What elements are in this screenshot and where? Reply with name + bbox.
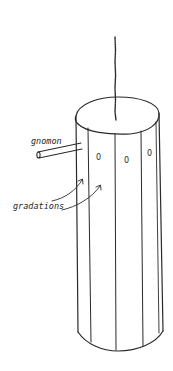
gradation-mark: 0 — [147, 149, 152, 158]
sundial-diagram: 0 0 0 gnomon gradations — [0, 0, 173, 371]
cylinder-right-edge — [159, 113, 163, 331]
cylinder-left-edge — [76, 116, 78, 332]
arrow-to-gradation — [62, 186, 100, 210]
gradations-label: gradations — [13, 201, 64, 211]
gnomon-label: gnomon — [31, 136, 62, 146]
facet-line — [115, 134, 116, 350]
hanging-string — [115, 37, 116, 120]
facet-line — [141, 131, 143, 346]
gradation-mark: 0 — [124, 156, 129, 165]
facet-line — [88, 128, 91, 342]
gnomon-peg-end — [37, 152, 40, 158]
gradation-mark: 0 — [96, 153, 101, 162]
cylinder-right-edge-inner — [156, 122, 159, 333]
arrow-to-gradation — [52, 180, 82, 201]
arrowhead-icon — [78, 179, 83, 184]
